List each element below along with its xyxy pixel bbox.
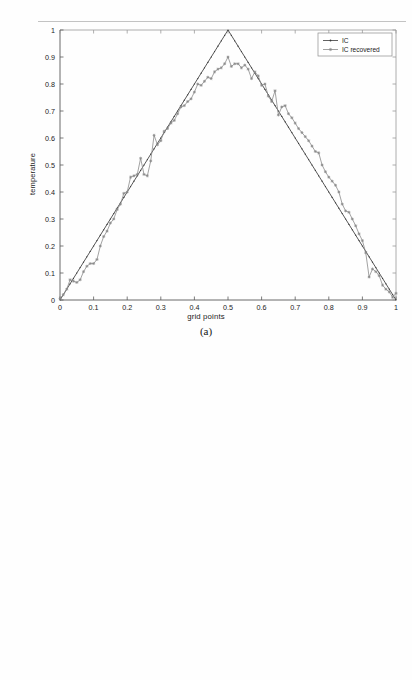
svg-text:1: 1 — [51, 26, 55, 35]
svg-text:0.5: 0.5 — [45, 161, 55, 170]
svg-text:0.6: 0.6 — [257, 303, 267, 312]
svg-text:0.4: 0.4 — [189, 303, 199, 312]
svg-text:0.9: 0.9 — [45, 53, 55, 62]
svg-text:0.5: 0.5 — [223, 303, 233, 312]
svg-text:0.2: 0.2 — [45, 242, 55, 251]
legend-label: IC recovered — [342, 46, 380, 53]
svg-text:0.3: 0.3 — [45, 215, 55, 224]
svg-text:0.8: 0.8 — [45, 80, 55, 89]
legend: ICIC recovered — [318, 33, 392, 56]
figure-a-xlabel: grid points — [0, 312, 412, 321]
legend-label: IC — [342, 37, 349, 44]
svg-text:0.6: 0.6 — [45, 134, 55, 143]
svg-text:0.1: 0.1 — [45, 269, 55, 278]
figure-a: temperature 00.10.20.30.40.50.60.70.80.9… — [0, 0, 412, 340]
figure-a-ylabel: temperature — [28, 153, 37, 195]
figure-b: temperature 00.10.20.30.40.50.60.70.80.9… — [0, 340, 412, 680]
svg-text:0.7: 0.7 — [290, 303, 300, 312]
figure-a-caption: (a) — [0, 325, 412, 337]
svg-text:0.1: 0.1 — [89, 303, 99, 312]
figure-a-plot: 00.10.20.30.40.50.60.70.80.9100.10.20.30… — [0, 0, 412, 318]
plot-frame — [60, 30, 396, 300]
svg-text:0: 0 — [58, 303, 62, 312]
svg-text:0.9: 0.9 — [357, 303, 367, 312]
series-ic — [59, 29, 396, 300]
svg-text:0.3: 0.3 — [156, 303, 166, 312]
svg-text:0.8: 0.8 — [324, 303, 334, 312]
svg-text:0.2: 0.2 — [122, 303, 132, 312]
figure-page: temperature 00.10.20.30.40.50.60.70.80.9… — [0, 0, 412, 680]
svg-text:0.4: 0.4 — [45, 188, 55, 197]
svg-text:0.7: 0.7 — [45, 107, 55, 116]
series-ic-recovered — [59, 56, 398, 301]
svg-text:1: 1 — [394, 303, 398, 312]
svg-text:0: 0 — [51, 296, 55, 305]
